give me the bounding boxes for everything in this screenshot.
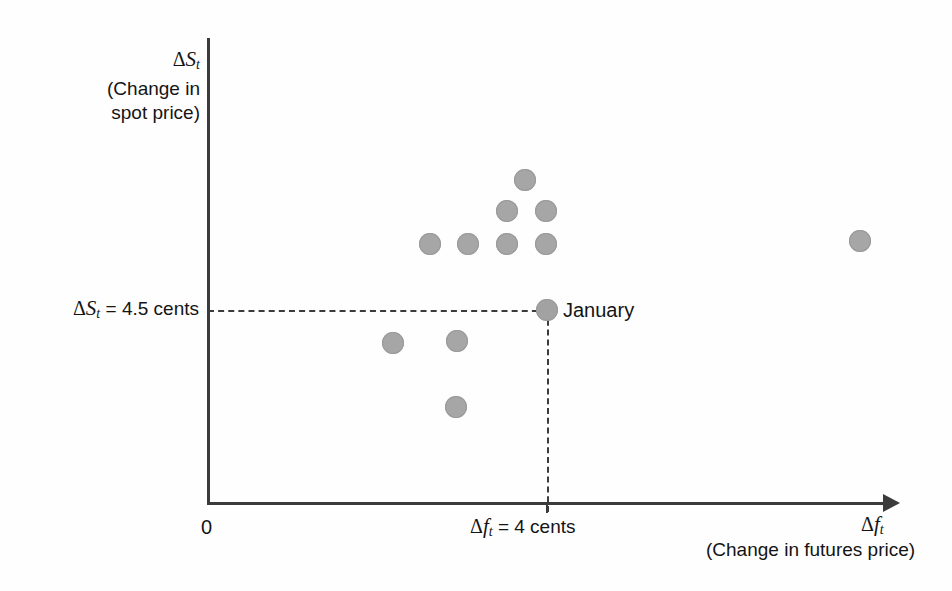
reference-line-vertical (547, 310, 549, 512)
data-point (445, 396, 467, 418)
y-axis-title-line-2: (Change in (40, 77, 200, 101)
delta-glyph: Δ (861, 513, 874, 535)
scatter-plot-figure: ΔSt (Change in spot price) ΔSt = 4.5 cen… (0, 0, 952, 591)
x-tick-subscript: t (489, 524, 493, 539)
x-tick-value-text: = 4 cents (498, 516, 576, 537)
y-axis-title-line-3: spot price) (40, 101, 200, 125)
data-point (849, 230, 871, 252)
reference-line-horizontal (208, 310, 548, 312)
x-axis-reference-label: Δft = 4 cents (470, 514, 576, 544)
data-point-january (536, 299, 558, 321)
data-point (457, 233, 479, 255)
x-axis-subscript: t (880, 522, 884, 537)
delta-glyph: Δ (73, 297, 86, 319)
y-tick-value-text: = 4.5 cents (106, 298, 199, 319)
y-axis-variable: S (186, 47, 197, 71)
data-point (535, 200, 557, 222)
data-point (446, 330, 468, 352)
x-axis-caption: (Change in futures price) (706, 538, 915, 562)
y-axis-symbol: ΔSt (40, 47, 200, 77)
y-axis-reference-label: ΔSt = 4.5 cents (44, 296, 199, 326)
y-axis-line (207, 38, 210, 505)
y-axis-subscript: t (196, 57, 200, 72)
y-tick-subscript: t (96, 306, 100, 321)
data-point (535, 233, 557, 255)
data-point (419, 233, 441, 255)
data-point (496, 200, 518, 222)
delta-glyph: Δ (470, 515, 483, 537)
delta-glyph: Δ (173, 48, 186, 70)
x-axis-arrow-icon (883, 494, 900, 512)
y-axis-title: ΔSt (Change in spot price) (40, 47, 200, 125)
data-point (382, 332, 404, 354)
annotation-january: January (563, 298, 634, 322)
origin-label: 0 (201, 515, 212, 539)
y-tick-variable: S (86, 296, 97, 320)
data-point (514, 169, 536, 191)
data-point (496, 233, 518, 255)
